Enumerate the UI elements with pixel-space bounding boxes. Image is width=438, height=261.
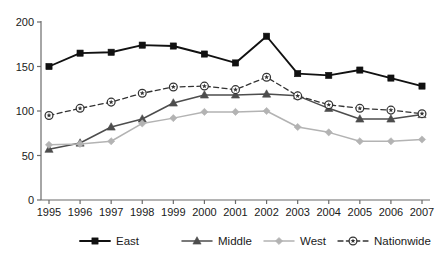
marker-circle-star <box>356 104 364 112</box>
legend-label: Nationwide <box>374 235 431 247</box>
marker-diamond <box>232 108 239 115</box>
series-line <box>49 111 422 145</box>
marker-diamond <box>294 123 301 130</box>
legend-label: East <box>116 235 140 247</box>
legend-label: Middle <box>218 235 252 247</box>
marker-circle-star <box>349 237 357 245</box>
legend-item-east[interactable]: East <box>80 235 140 247</box>
marker-diamond <box>108 138 115 145</box>
x-axis-tick-label: 1996 <box>68 206 92 218</box>
marker-diamond <box>275 237 282 244</box>
series-middle <box>45 90 426 153</box>
series-container <box>45 33 426 152</box>
marker-square <box>232 60 238 66</box>
marker-diamond <box>387 138 394 145</box>
legend-item-west[interactable]: West <box>264 235 327 247</box>
marker-square <box>263 33 269 39</box>
series-east <box>46 33 425 89</box>
marker-square <box>108 49 114 55</box>
marker-circle-star <box>418 110 426 118</box>
marker-diamond <box>356 138 363 145</box>
y-axis-tick-label: 200 <box>16 16 34 28</box>
chart-canvas: 050100150200 199519961997199819992000200… <box>0 0 438 261</box>
y-axis-tick-label: 150 <box>16 61 34 73</box>
marker-square <box>326 72 332 78</box>
marker-circle-star <box>138 89 146 97</box>
y-axis: 050100150200 <box>16 16 41 206</box>
marker-circle-star <box>107 98 115 106</box>
x-axis-tick-label: 1995 <box>37 206 61 218</box>
x-axis-tick-label: 1997 <box>99 206 123 218</box>
marker-diamond <box>325 129 332 136</box>
x-axis-tick-label: 1999 <box>161 206 185 218</box>
marker-circle-star <box>201 82 209 90</box>
marker-circle-star <box>387 106 395 114</box>
legend-item-middle[interactable]: Middle <box>182 235 252 247</box>
x-axis-tick-label: 2004 <box>317 206 341 218</box>
marker-diamond <box>418 136 425 143</box>
x-axis-tick-label: 2003 <box>285 206 309 218</box>
marker-circle-star <box>76 104 84 112</box>
marker-circle-star <box>45 112 53 120</box>
marker-square <box>201 51 207 57</box>
legend-item-nationwide[interactable]: Nationwide <box>338 235 431 247</box>
marker-diamond <box>170 115 177 122</box>
y-axis-tick-label: 100 <box>16 105 34 117</box>
x-axis-tick-label: 1998 <box>130 206 154 218</box>
marker-circle-star <box>232 86 240 94</box>
x-axis-tick-label: 2005 <box>348 206 372 218</box>
marker-square <box>139 42 145 48</box>
chart-legend: EastMiddleWestNationwide <box>80 235 431 247</box>
marker-square <box>92 238 98 244</box>
marker-square <box>295 71 301 77</box>
x-axis-tick-label: 2006 <box>379 206 403 218</box>
marker-square <box>170 43 176 49</box>
marker-square <box>46 63 52 69</box>
marker-square <box>77 50 83 56</box>
marker-diamond <box>263 107 270 114</box>
x-axis-tick-label: 2007 <box>410 206 434 218</box>
x-axis-tick-label: 2001 <box>223 206 247 218</box>
marker-diamond <box>45 141 52 148</box>
x-axis: 1995199619971998199920002001200220032004… <box>37 200 434 218</box>
marker-square <box>419 83 425 89</box>
marker-square <box>388 75 394 81</box>
x-axis-tick-label: 2000 <box>192 206 216 218</box>
marker-square <box>357 67 363 73</box>
series-west <box>45 107 425 148</box>
y-axis-tick-label: 0 <box>28 194 34 206</box>
marker-circle-star <box>294 92 302 100</box>
marker-diamond <box>201 108 208 115</box>
marker-circle-star <box>325 101 333 109</box>
marker-circle-star <box>169 83 177 91</box>
line-chart: 050100150200 199519961997199819992000200… <box>0 0 438 261</box>
legend-label: West <box>300 235 327 247</box>
y-axis-tick-label: 50 <box>22 150 34 162</box>
marker-circle-star <box>263 73 271 81</box>
x-axis-tick-label: 2002 <box>254 206 278 218</box>
